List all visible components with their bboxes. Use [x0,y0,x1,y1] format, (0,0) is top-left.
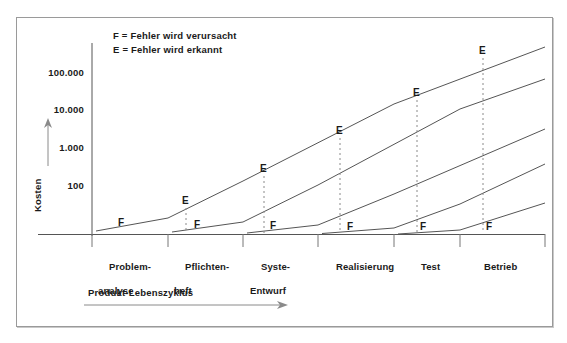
legend-detect: E = Fehler wird erkannt [113,45,222,55]
y-tick-10000: 10.000 [14,105,84,115]
category-label-problemanalyse: Problem- analyse [98,252,151,314]
marker-f-test: F [420,222,426,232]
category-line-2: analyse [98,286,151,296]
category-line-1: Test [421,261,440,272]
marker-e-realisierung: E [336,126,343,136]
marker-e-test: E [413,88,420,98]
curve-realisierung [322,164,545,234]
marker-e-pflichtenheft: E [182,196,189,206]
category-label-systementwurf: Syste- Entwurf [250,252,290,314]
category-line-2: heft [174,286,229,296]
curve-problemanalyse [96,47,545,231]
y-axis-title: Kosten [33,179,43,212]
marker-f-systementwurf: F [270,221,276,231]
category-line-1: Problem- [109,261,151,272]
detection-droplines [186,58,483,233]
marker-f-pflichtenheft: F [194,220,200,230]
kosten-axis-arrow [44,118,52,166]
category-label-test: Test [410,252,440,281]
category-line-2: Entwurf [250,286,290,296]
x-axis-ticks [92,234,545,247]
marker-e-betrieb: E [479,46,486,56]
marker-f-realisierung: F [347,222,353,232]
category-line-1: Syste- [261,261,290,272]
y-tick-1000: 1.000 [14,143,84,153]
marker-f-betrieb: F [486,222,492,232]
category-line-1: Pflichten- [185,261,229,272]
category-line-1: Betrieb [484,261,517,272]
category-label-pflichtenheft: Pflichten- heft [174,252,229,314]
marker-f-problemanalyse: F [118,218,124,228]
category-label-betrieb: Betrieb [473,252,517,281]
curve-pflichtenheft [172,79,545,232]
legend-cause: F = Fehler wird verursacht [113,31,237,41]
category-label-realisierung: Realisierung [325,252,394,281]
y-tick-100: 100 [14,181,84,191]
figure-root: F = Fehler wird verursacht E = Fehler wi… [0,0,567,343]
marker-e-systementwurf: E [260,164,267,174]
category-line-1: Realisierung [336,261,394,272]
cost-curves [96,47,545,234]
y-tick-100000: 100.000 [14,68,84,78]
